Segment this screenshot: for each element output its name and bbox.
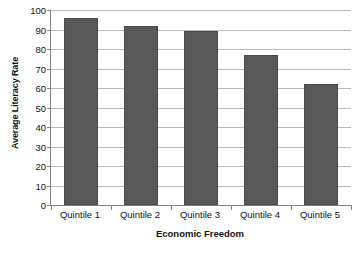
bar[interactable]	[244, 55, 278, 205]
bar-slot	[291, 10, 351, 205]
y-tick-label: 0	[41, 200, 46, 211]
bar-slot	[111, 10, 171, 205]
y-tick-label: 80	[35, 44, 46, 55]
bar[interactable]	[64, 18, 98, 205]
y-tick-label: 90	[35, 24, 46, 35]
y-tick-label: 40	[35, 122, 46, 133]
x-tick-label: Quintile 5	[290, 209, 350, 220]
bar-slot	[231, 10, 291, 205]
bar-chart: Average Literacy Rate 010203040506070809…	[0, 0, 358, 257]
x-tick-label: Quintile 3	[170, 209, 230, 220]
plot-area	[50, 10, 351, 206]
bar[interactable]	[184, 31, 218, 205]
y-tick-label: 100	[30, 5, 46, 16]
y-tick-label: 30	[35, 141, 46, 152]
y-tick-label: 50	[35, 102, 46, 113]
x-tick-label: Quintile 4	[230, 209, 290, 220]
x-tick-mark	[351, 205, 352, 210]
gridline	[51, 205, 351, 206]
y-tick-label: 60	[35, 83, 46, 94]
y-tick-label: 10	[35, 180, 46, 191]
y-tick-label: 70	[35, 63, 46, 74]
y-axis-tick-labels: 0102030405060708090100	[22, 10, 46, 205]
y-axis-title-text: Average Literacy Rate	[10, 56, 20, 148]
bar[interactable]	[304, 84, 338, 205]
x-tick-label: Quintile 1	[50, 209, 110, 220]
x-axis-title: Economic Freedom	[50, 228, 350, 239]
bar-slot	[171, 10, 231, 205]
y-tick-label: 20	[35, 161, 46, 172]
x-axis-tick-labels: Quintile 1Quintile 2Quintile 3Quintile 4…	[50, 209, 350, 220]
bar[interactable]	[124, 26, 158, 205]
bar-slot	[51, 10, 111, 205]
x-tick-label: Quintile 2	[110, 209, 170, 220]
bar-series	[51, 10, 351, 205]
